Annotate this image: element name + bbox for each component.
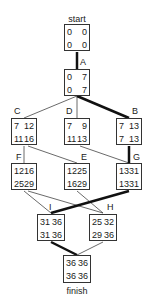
a-lf: 7 <box>82 85 87 96</box>
h-ef: 32 <box>104 217 114 228</box>
i-lf: 36 <box>52 230 62 241</box>
i-es: 31 <box>40 217 50 228</box>
c-ef: 12 <box>24 121 34 132</box>
b-ef: 13 <box>129 121 139 132</box>
start-lf: 0 <box>82 40 87 51</box>
i-ls: 31 <box>40 230 50 241</box>
e-ls: 16 <box>67 179 77 190</box>
node-c: 712 1116 <box>11 118 37 145</box>
d-ls: 11 <box>67 134 76 145</box>
node-i-label: I <box>49 202 52 212</box>
e-es: 12 <box>67 166 77 177</box>
a-es: 0 <box>67 72 72 83</box>
node-f-label: F <box>16 152 22 162</box>
node-start: 00 00 <box>64 24 90 51</box>
i-ef: 36 <box>52 217 62 228</box>
finish-ls: 36 <box>66 271 76 282</box>
c-lf: 16 <box>24 134 34 145</box>
node-i: 3136 3136 <box>37 214 65 241</box>
f-lf: 29 <box>24 179 34 190</box>
g-ef: 31 <box>129 166 139 177</box>
h-ls: 29 <box>92 230 102 241</box>
node-d-label: D <box>66 106 73 116</box>
b-ls: 7 <box>119 134 124 145</box>
h-lf: 36 <box>104 230 114 241</box>
start-es: 0 <box>67 27 72 38</box>
start-caption: start <box>57 14 97 24</box>
node-h: 2532 2936 <box>89 214 117 241</box>
start-ef: 0 <box>82 27 87 38</box>
edge-i-finish <box>51 242 77 255</box>
finish-es: 36 <box>66 258 76 269</box>
f-ls: 25 <box>14 179 24 190</box>
d-es: 7 <box>67 121 72 132</box>
e-ef: 25 <box>77 166 87 177</box>
e-lf: 29 <box>77 179 87 190</box>
start-ls: 0 <box>67 40 72 51</box>
edge-f-i <box>24 191 51 213</box>
d-ef: 9 <box>82 121 87 132</box>
node-h-label: H <box>107 202 114 212</box>
node-b-label: B <box>132 106 138 116</box>
g-es: 13 <box>119 166 129 177</box>
node-g-label: G <box>133 152 140 162</box>
node-c-label: C <box>14 106 21 116</box>
b-es: 7 <box>119 121 124 132</box>
node-b: 713 713 <box>116 118 142 145</box>
node-d: 79 1113 <box>64 118 90 145</box>
finish-caption: finish <box>57 286 97 296</box>
node-finish: 3636 3636 <box>63 255 91 283</box>
node-f: 1216 2529 <box>11 163 37 190</box>
network-diagram: start 00 00 A 07 07 C 712 1116 D 79 1113… <box>0 0 149 305</box>
a-ls: 0 <box>67 85 72 96</box>
edge-g-i <box>51 191 129 213</box>
h-es: 25 <box>92 217 102 228</box>
edge-a-b <box>77 96 129 118</box>
edge-d-g <box>80 146 129 163</box>
a-ef: 7 <box>82 72 87 83</box>
c-es: 7 <box>14 121 19 132</box>
node-a: 07 07 <box>64 69 90 96</box>
node-e-label: E <box>81 152 87 162</box>
finish-ef: 36 <box>78 258 88 269</box>
b-lf: 13 <box>129 134 139 145</box>
node-g: 1331 1331 <box>116 163 142 190</box>
edge-h-finish <box>77 242 103 255</box>
d-lf: 13 <box>77 134 87 145</box>
finish-lf: 36 <box>78 271 88 282</box>
node-e: 1225 1629 <box>64 163 90 190</box>
g-ls: 13 <box>119 179 129 190</box>
edge-c-e <box>28 146 77 163</box>
g-lf: 31 <box>129 179 139 190</box>
node-a-label: A <box>80 57 86 67</box>
f-es: 12 <box>14 166 24 177</box>
f-ef: 16 <box>24 166 34 177</box>
c-ls: 11 <box>14 134 23 145</box>
